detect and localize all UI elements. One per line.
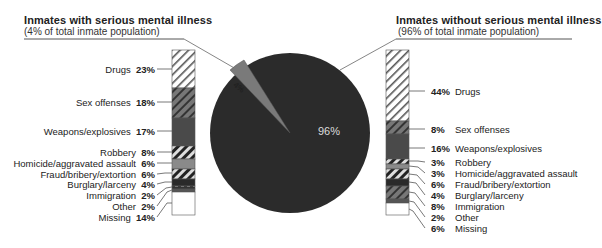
left-stacked-bar bbox=[172, 50, 195, 215]
left-item: Immigration 2% bbox=[86, 190, 155, 201]
left-item: Other 2% bbox=[112, 201, 155, 212]
left-item: Robbery 8% bbox=[100, 147, 155, 158]
right-item: 2%Other bbox=[431, 212, 479, 223]
right-stacked-bar bbox=[386, 50, 409, 215]
right-item: 8%Sex offenses bbox=[431, 124, 510, 135]
right-item: 3%Robbery bbox=[431, 157, 491, 168]
left-item: Sex offenses 18% bbox=[76, 97, 155, 108]
right-item: 6%Fraud/bribery/extortion bbox=[431, 179, 551, 190]
right-item: 44%Drugs bbox=[431, 86, 480, 97]
left-item: Weapons/explosives 17% bbox=[44, 126, 155, 137]
pie-chart bbox=[210, 53, 370, 213]
left-item: Drugs 23% bbox=[105, 64, 155, 75]
right-item: 16%Weapons/explosives bbox=[431, 143, 542, 154]
pie-label-large: 96% bbox=[318, 126, 340, 137]
left-item: Burglary/larceny 4% bbox=[67, 179, 155, 190]
left-item: Missing 14% bbox=[99, 212, 156, 223]
right-item: 6%Missing bbox=[431, 223, 487, 234]
right-item: 8%Immigration bbox=[431, 201, 505, 212]
left-item: Homicide/aggravated assault 6% bbox=[13, 158, 155, 169]
right-item: 3%Homicide/aggravated assault bbox=[431, 168, 578, 179]
right-item: 4%Burglary/larceny bbox=[431, 190, 524, 201]
